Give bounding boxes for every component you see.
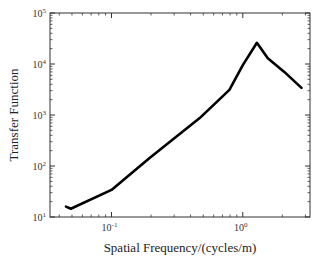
transfer-function-chart: 101102103104105 10-1100 Spatial Frequenc… [0, 0, 321, 267]
y-tick-label: 102 [33, 160, 47, 172]
y-tick-label: 105 [33, 7, 47, 19]
y-tick-label: 103 [33, 109, 47, 121]
data-series-line [66, 43, 302, 209]
plot-frame [50, 13, 310, 217]
y-axis-ticks: 101102103104105 [33, 7, 311, 223]
x-tick-label: 10-1 [102, 221, 118, 233]
y-axis-label: Transfer Function [6, 68, 21, 162]
x-axis-label: Spatial Frequency/(cycles/m) [104, 240, 257, 255]
x-tick-label: 100 [234, 221, 248, 233]
y-tick-label: 101 [33, 211, 47, 223]
x-axis-ticks: 10-1100 [102, 13, 248, 233]
y-tick-label: 104 [33, 58, 47, 70]
minor-ticks [50, 13, 310, 217]
